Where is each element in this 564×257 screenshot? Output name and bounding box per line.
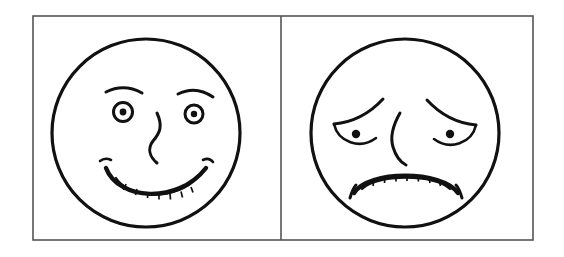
- illustration-canvas: Two hand-drawn face panels A black-and-w…: [0, 0, 564, 257]
- background: [0, 0, 564, 257]
- faces-drawing: Two hand-drawn face panels A black-and-w…: [0, 0, 564, 257]
- sad-left-eye-pupil-icon: [352, 130, 360, 138]
- sad-right-eye-pupil-icon: [446, 130, 454, 138]
